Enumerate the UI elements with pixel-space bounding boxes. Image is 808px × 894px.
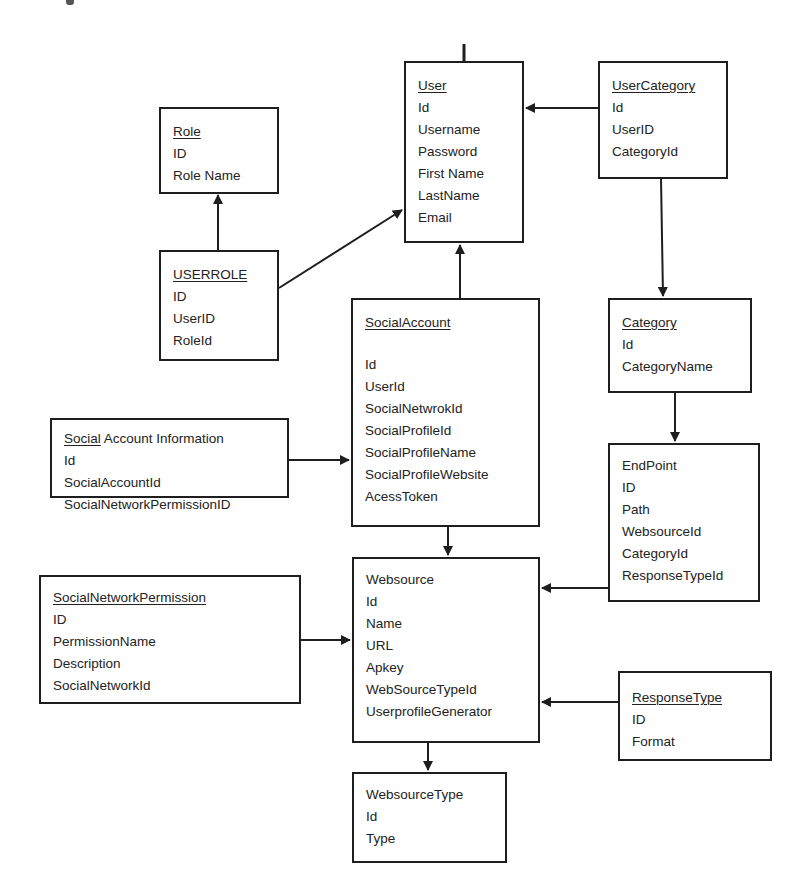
entity-title: WebsourceType — [366, 784, 505, 806]
entity-user: User Id Username Password First Name Las… — [404, 61, 524, 243]
entity-userrole: USERROLE ID UserID RoleId — [159, 250, 279, 361]
entity-field: Id — [418, 97, 522, 119]
entity-field: Description — [53, 653, 299, 675]
entity-field: Email — [418, 207, 522, 229]
entity-field: Id — [366, 591, 538, 613]
entity-field: Username — [418, 119, 522, 141]
entity-field: Id — [622, 334, 750, 356]
entity-field: UserID — [612, 119, 726, 141]
entity-field: SocialProfileName — [365, 442, 538, 464]
entity-field: RoleId — [173, 330, 277, 352]
entity-role: Role ID Role Name — [159, 107, 279, 194]
entity-field: SocialProfileWebsite — [365, 464, 538, 486]
entity-title: ResponseType — [632, 687, 770, 709]
entity-field: ID — [173, 143, 277, 165]
entity-socialaccount: SocialAccount Id UserId SocialNetwrokId … — [351, 298, 540, 527]
entity-field: Id — [612, 97, 726, 119]
entity-field: UserprofileGenerator — [366, 701, 538, 723]
entity-socialnetworkpermission: SocialNetworkPermission ID PermissionNam… — [39, 575, 301, 704]
entity-field: ID — [53, 609, 299, 631]
entity-field: Role Name — [173, 165, 277, 187]
entity-title: USERROLE — [173, 264, 277, 286]
scan-artifact — [66, 0, 74, 5]
entity-field: WebSourceTypeId — [366, 679, 538, 701]
entity-title: Websource — [366, 569, 538, 591]
entity-field: Type — [366, 828, 505, 850]
entity-title: UserCategory — [612, 75, 726, 97]
entity-field: ID — [173, 286, 277, 308]
er-diagram-canvas: User Id Username Password First Name Las… — [0, 0, 808, 894]
entity-field: ID — [632, 709, 770, 731]
entity-title: SocialNetworkPermission — [53, 587, 299, 609]
entity-websource: Websource Id Name URL Apkey WebSourceTyp… — [352, 557, 540, 743]
entity-usercategory: UserCategory Id UserID CategoryId — [598, 61, 728, 179]
entity-title-underlined: Social — [64, 431, 101, 446]
entity-field: PermissionName — [53, 631, 299, 653]
entity-responsetype: ResponseType ID Format — [618, 671, 772, 761]
entity-field: UserId — [365, 376, 538, 398]
entity-field: Id — [365, 354, 538, 376]
entity-field: URL — [366, 635, 538, 657]
entity-field: Path — [622, 499, 758, 521]
entity-field: CategoryId — [612, 141, 726, 163]
entity-title: User — [418, 75, 522, 97]
entity-title: Role — [173, 121, 277, 143]
entity-category: Category Id CategoryName — [608, 298, 752, 393]
entity-field: Format — [632, 731, 770, 753]
entity-field: ResponseTypeId — [622, 565, 758, 587]
entity-field: AcessToken — [365, 486, 538, 508]
entity-field: CategoryName — [622, 356, 750, 378]
entity-social-account-information: Social Account Information Id SocialAcco… — [50, 418, 289, 498]
entity-field: Password — [418, 141, 522, 163]
entity-field: SocialNetworkPermissionID — [64, 494, 287, 516]
entity-endpoint: EndPoint ID Path WebsourceId CategoryId … — [608, 443, 760, 602]
entity-title: Social Account Information — [64, 428, 287, 450]
entity-field: SocialProfileId — [365, 420, 538, 442]
entity-field: CategoryId — [622, 543, 758, 565]
entity-field: Apkey — [366, 657, 538, 679]
blank-line — [365, 334, 538, 354]
entity-field: ID — [622, 477, 758, 499]
entity-title: SocialAccount — [365, 312, 538, 334]
entity-title: Category — [622, 312, 750, 334]
entity-field: WebsourceId — [622, 521, 758, 543]
entity-title-rest: Account Information — [101, 431, 224, 446]
entity-title: EndPoint — [622, 455, 758, 477]
entity-field: Name — [366, 613, 538, 635]
entity-field: SocialAccountId — [64, 472, 287, 494]
entity-field: UserID — [173, 308, 277, 330]
entity-field: Id — [64, 450, 287, 472]
entity-field: First Name — [418, 163, 522, 185]
entity-field: Id — [366, 806, 505, 828]
arrow-usercategory-to-category — [661, 178, 663, 296]
entity-websourcetype: WebsourceType Id Type — [352, 772, 507, 863]
arrow-userrole-to-user — [279, 210, 402, 288]
entity-field: LastName — [418, 185, 522, 207]
entity-field: SocialNetworkId — [53, 675, 299, 697]
entity-field: SocialNetwrokId — [365, 398, 538, 420]
